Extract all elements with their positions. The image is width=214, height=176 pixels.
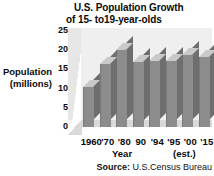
x-axis-title: Year [112,148,132,159]
bar-front-face [116,50,127,127]
y-axis-tick: 25 [58,26,68,35]
chart-title-line-1: U.S. Population Growth [66,2,212,14]
y-axis-label-line-1: Population [0,66,52,78]
bar [166,61,176,127]
chart-container: U.S. Population Growth of 15- to19-year-… [0,0,214,176]
bar-front-face [199,57,210,127]
y-axis-tick: 15 [58,64,68,73]
x-axis-tick: '94 [151,136,164,147]
bar [116,50,126,127]
estimate-note: (est.) [173,148,196,159]
bar-series [68,28,212,135]
x-axis-tick: '15 [200,136,213,147]
bar [149,61,159,127]
chart-title: U.S. Population Growth of 15- to19-year-… [66,2,212,25]
y-axis-tick: 20 [58,45,68,54]
x-axis-tick: '95 [167,136,180,147]
bar-front-face [100,64,111,127]
chart-title-line-2: of 15- to19-year-olds [66,14,212,26]
x-axis-tick: '00 [184,136,197,147]
source-label: Source: [96,162,130,172]
y-axis-label: Population (millions) [0,66,52,90]
x-axis-tick: 1960 [81,136,102,147]
bar-front-face [166,61,177,127]
x-axis-tick: '70 [101,136,114,147]
source-value: U.S.Census Bureau [132,162,212,172]
bar [100,64,110,127]
y-axis-ticks: 2520151050 [48,24,68,136]
bar [83,87,93,127]
x-axis-tick: 90 [135,136,146,147]
bar-front-face [133,62,144,128]
x-axis-tick: '80 [118,136,131,147]
bar [133,62,143,128]
bar-front-face [182,55,193,127]
plot-area [68,28,212,135]
source-line: Source: U.S.Census Bureau [0,162,212,172]
y-axis-tick: 10 [58,83,68,92]
bar [199,57,209,127]
bar [182,55,192,127]
bar-front-face [149,61,160,127]
y-axis-label-line-2: (millions) [0,78,52,90]
bar-front-face [83,87,94,127]
